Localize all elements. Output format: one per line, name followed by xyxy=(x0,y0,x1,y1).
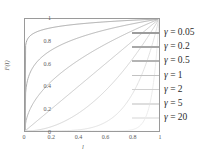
legend-item[interactable]: γ = 2 xyxy=(132,83,214,97)
legend-label: γ = 0.2 xyxy=(164,40,190,53)
legend-color-swatch xyxy=(132,60,159,62)
legend-label: γ = 2 xyxy=(164,83,183,96)
legend-color-swatch xyxy=(132,89,159,91)
legend-color-swatch xyxy=(132,75,159,77)
x-tick-label: 0 xyxy=(14,134,34,140)
y-tick-label: 0.4 xyxy=(27,83,51,89)
legend-label: γ = 1 xyxy=(164,69,183,82)
y-tick-label: 0.6 xyxy=(27,61,51,67)
legend-item[interactable]: γ = 0.2 xyxy=(132,40,214,54)
legend-color-swatch xyxy=(132,32,159,34)
legend-label: γ = 20 xyxy=(164,111,187,124)
x-axis-label: l xyxy=(82,143,84,150)
x-tick-label: 0.2 xyxy=(41,134,61,140)
x-tick-label: 1 xyxy=(150,134,170,140)
x-tick-label: 0.8 xyxy=(123,134,143,140)
figure: 10.80.60.40.20 00.20.40.60.81 F(l) l γ =… xyxy=(0,0,214,154)
legend-item[interactable]: γ = 20 xyxy=(132,111,214,125)
legend-color-swatch xyxy=(132,103,159,105)
y-tick-label: 0.8 xyxy=(27,38,51,44)
legend-label: γ = 0.5 xyxy=(164,54,190,67)
legend-item[interactable]: γ = 0.05 xyxy=(132,26,214,40)
legend-item[interactable]: γ = 1 xyxy=(132,69,214,83)
x-tick-label: 0.4 xyxy=(68,134,88,140)
y-tick-label: 1 xyxy=(27,15,51,21)
legend-color-swatch xyxy=(132,46,159,48)
y-tick-label: 0.2 xyxy=(27,106,51,112)
legend: γ = 0.05γ = 0.2γ = 0.5γ = 1γ = 2γ = 5γ =… xyxy=(132,26,214,130)
legend-item[interactable]: γ = 5 xyxy=(132,97,214,111)
legend-color-swatch xyxy=(132,117,159,119)
x-tick-label: 0.6 xyxy=(96,134,116,140)
legend-label: γ = 0.05 xyxy=(164,26,194,39)
y-axis-label: F(l) xyxy=(3,60,10,70)
legend-item[interactable]: γ = 0.5 xyxy=(132,54,214,68)
legend-label: γ = 5 xyxy=(164,97,183,110)
